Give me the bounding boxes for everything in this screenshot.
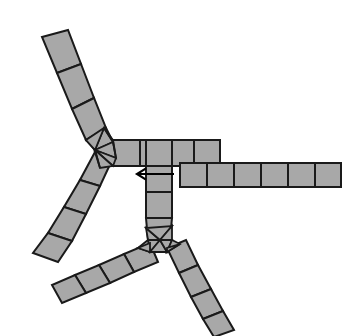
quad-face xyxy=(146,192,172,218)
diagram-canvas xyxy=(0,0,361,336)
quad-face xyxy=(288,163,315,187)
branch-long-right-horizontal xyxy=(180,163,341,187)
quad-face xyxy=(113,140,140,166)
quad-face xyxy=(315,163,341,187)
quad-face xyxy=(146,166,172,192)
branch-vertical-connector xyxy=(146,140,172,240)
quad-face xyxy=(234,163,261,187)
quad-face xyxy=(261,163,288,187)
quad-face xyxy=(146,140,172,166)
mesh-skeleton-figure xyxy=(0,0,361,336)
quad-face xyxy=(180,163,207,187)
quad-face xyxy=(207,163,234,187)
